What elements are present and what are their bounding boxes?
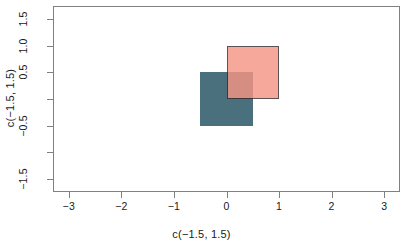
x-axis-tick-label: −2 — [101, 200, 141, 212]
x-axis-tick-label: −3 — [49, 200, 89, 212]
y-axis-tick — [47, 99, 53, 100]
x-axis-tick — [332, 192, 333, 198]
x-axis-tick-label: 3 — [364, 200, 403, 212]
x-axis-tick — [69, 192, 70, 198]
x-axis-tick — [279, 192, 280, 198]
x-axis-tick — [121, 192, 122, 198]
x-axis-tick-label: 0 — [207, 200, 247, 212]
y-axis-tick — [47, 179, 53, 180]
x-axis-tick-label: 1 — [259, 200, 299, 212]
r-plot-canvas: −3−2−101231.51.00.5−0.5−1.5 c(−1.5, 1.5)… — [0, 0, 403, 249]
x-axis-tick-label: 2 — [312, 200, 352, 212]
y-axis-tick — [47, 152, 53, 153]
y-axis-tick — [47, 126, 53, 127]
y-axis-tick — [47, 19, 53, 20]
x-axis-tick — [174, 192, 175, 198]
x-axis-tick — [384, 192, 385, 198]
y-axis-tick — [47, 72, 53, 73]
salmon-square-shape — [227, 46, 280, 99]
y-axis-tick — [47, 46, 53, 47]
x-axis-tick — [227, 192, 228, 198]
y-axis-title: c(−1.5, 1.5) — [4, 5, 16, 191]
x-axis-tick-label: −1 — [154, 200, 194, 212]
x-axis-title: c(−1.5, 1.5) — [0, 228, 403, 240]
